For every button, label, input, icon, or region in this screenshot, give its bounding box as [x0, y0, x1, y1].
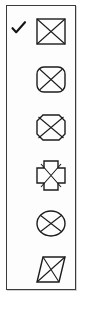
shape-style-palette[interactable] — [6, 5, 76, 290]
cross-with-x-icon — [30, 154, 72, 196]
shape-option-parallelogram[interactable] — [7, 246, 75, 292]
shape-option-rectangle[interactable] — [7, 8, 75, 54]
parallelogram-with-x-icon — [30, 248, 72, 290]
rounded-rectangle-with-x-icon — [30, 58, 72, 100]
shape-option-cross[interactable] — [7, 152, 75, 198]
checkmark-icon — [10, 19, 28, 39]
shape-option-list — [7, 6, 75, 289]
checkmark-icon-slot — [10, 163, 28, 183]
checkmark-icon-slot — [10, 67, 28, 87]
shape-option-rounded-rectangle[interactable] — [7, 56, 75, 102]
rectangle-with-x-icon — [30, 10, 72, 52]
checkmark-icon-slot — [10, 211, 28, 231]
shape-option-ellipse[interactable] — [7, 200, 75, 246]
checkmark-icon-slot — [10, 115, 28, 135]
ellipse-with-x-icon — [30, 202, 72, 244]
octagon-with-x-icon — [30, 106, 72, 148]
shape-option-octagon[interactable] — [7, 104, 75, 150]
checkmark-icon-slot — [10, 257, 28, 277]
